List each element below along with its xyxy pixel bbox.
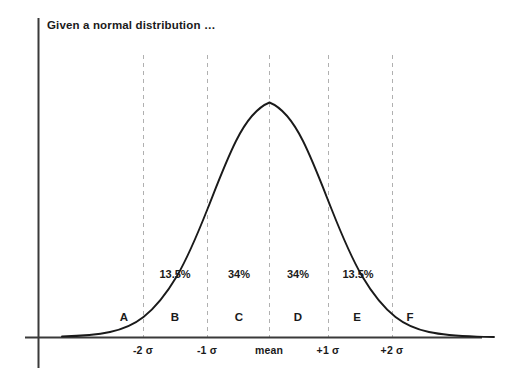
- x-tick-label-mean: mean: [255, 345, 283, 356]
- region-label-f: F: [406, 312, 413, 324]
- region-label-b: B: [171, 312, 179, 324]
- percent-label-c: 34%: [228, 269, 250, 280]
- x-tick-label-minus-1-sigma: -1 σ: [197, 345, 217, 356]
- region-label-a: A: [120, 312, 128, 324]
- region-label-e: E: [353, 312, 361, 324]
- normal-distribution-figure: Given a normal distribution … 13.5% 34% …: [0, 0, 508, 380]
- page-title: Given a normal distribution …: [47, 20, 216, 32]
- percent-label-b: 13.5%: [159, 269, 190, 280]
- region-label-d: D: [294, 312, 302, 324]
- percent-label-e: 13.5%: [342, 269, 373, 280]
- distribution-chart-svg: [0, 0, 508, 380]
- gridlines-group: [144, 55, 393, 338]
- x-tick-label-plus-2-sigma: +2 σ: [381, 345, 404, 356]
- x-tick-label-minus-2-sigma: -2 σ: [133, 345, 153, 356]
- percent-label-d: 34%: [287, 269, 309, 280]
- x-tick-label-plus-1-sigma: +1 σ: [317, 345, 340, 356]
- bell-curve-path: [62, 103, 494, 338]
- region-label-c: C: [235, 312, 243, 324]
